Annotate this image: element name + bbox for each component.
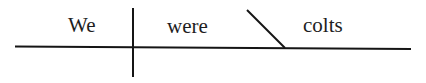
verb-word: were <box>167 16 208 37</box>
baseline <box>15 47 411 50</box>
complement-divider <box>247 10 285 48</box>
subject-word: We <box>68 15 95 36</box>
sentence-diagram: We were colts <box>0 0 426 83</box>
complement-word: colts <box>303 15 343 36</box>
diagram-lines <box>0 0 426 83</box>
